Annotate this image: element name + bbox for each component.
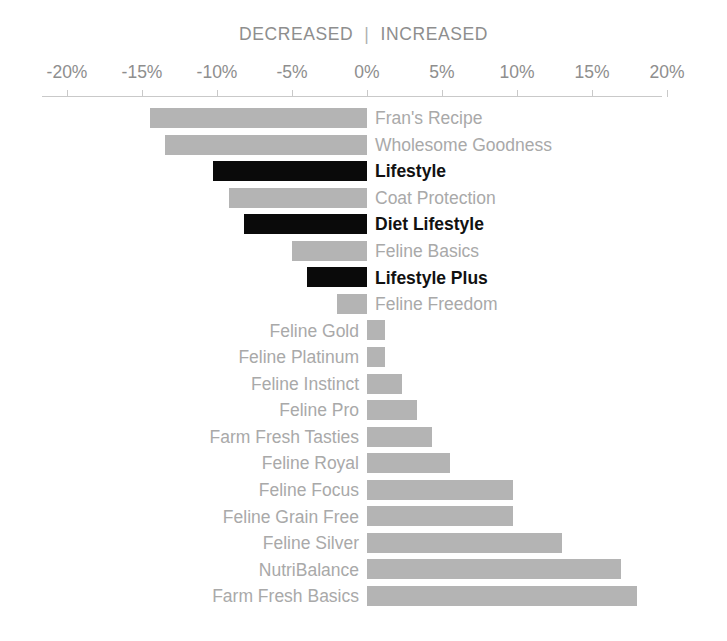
bar-label: Lifestyle [375, 163, 446, 181]
bar-row[interactable]: Feline Basics [0, 241, 727, 261]
plot-area: Fran's RecipeWholesome GoodnessLifestyle… [0, 0, 727, 641]
bar-row[interactable]: Feline Royal [0, 453, 727, 473]
bar[interactable] [367, 453, 450, 473]
bar[interactable] [367, 559, 621, 579]
bar[interactable] [229, 188, 367, 208]
bar-label: Wholesome Goodness [375, 137, 552, 155]
bar-label: Feline Pro [279, 402, 359, 420]
bar-row[interactable]: Feline Platinum [0, 347, 727, 367]
bar-label: Coat Protection [375, 190, 496, 208]
bar-row[interactable]: Feline Freedom [0, 294, 727, 314]
bar-row[interactable]: Coat Protection [0, 188, 727, 208]
bar-label: Feline Silver [263, 535, 359, 553]
bar-row[interactable]: Lifestyle Plus [0, 267, 727, 287]
bar[interactable] [292, 241, 367, 261]
bar-row[interactable]: Wholesome Goodness [0, 135, 727, 155]
bar-label: Feline Platinum [238, 349, 359, 367]
bar-label: NutriBalance [259, 562, 359, 580]
bar-label: Feline Focus [259, 482, 359, 500]
bar-row[interactable]: Feline Grain Free [0, 506, 727, 526]
bar-label: Farm Fresh Basics [212, 588, 359, 606]
bar[interactable] [367, 374, 402, 394]
bar-label: Feline Instinct [251, 376, 359, 394]
bar[interactable] [244, 214, 367, 234]
bar[interactable] [367, 533, 562, 553]
bar-row[interactable]: Fran's Recipe [0, 108, 727, 128]
bar[interactable] [367, 427, 432, 447]
bar-row[interactable]: Farm Fresh Tasties [0, 427, 727, 447]
bar-row[interactable]: Feline Silver [0, 533, 727, 553]
bar[interactable] [367, 320, 385, 340]
bar-label: Feline Freedom [375, 296, 498, 314]
bar-chart: DECREASED | INCREASED -20%-15%-10%-5%0%5… [0, 0, 727, 641]
bar[interactable] [307, 267, 367, 287]
bar-row[interactable]: Farm Fresh Basics [0, 586, 727, 606]
bar-label: Feline Gold [270, 323, 360, 341]
bar-row[interactable]: Feline Pro [0, 400, 727, 420]
bar-label: Feline Basics [375, 243, 479, 261]
bar-row[interactable]: Lifestyle [0, 161, 727, 181]
bar[interactable] [165, 135, 368, 155]
bar[interactable] [367, 347, 385, 367]
bar-label: Farm Fresh Tasties [210, 429, 359, 447]
bar-label: Diet Lifestyle [375, 216, 484, 234]
bar-label: Fran's Recipe [375, 110, 482, 128]
bar-label: Feline Royal [262, 455, 359, 473]
bar[interactable] [150, 108, 368, 128]
bar-row[interactable]: NutriBalance [0, 559, 727, 579]
bar[interactable] [367, 400, 417, 420]
bar[interactable] [213, 161, 368, 181]
bar-label: Feline Grain Free [223, 509, 359, 527]
bar-row[interactable]: Diet Lifestyle [0, 214, 727, 234]
bar[interactable] [367, 586, 637, 606]
bar[interactable] [367, 480, 513, 500]
bar[interactable] [367, 506, 513, 526]
bar-label: Lifestyle Plus [375, 270, 488, 288]
bar[interactable] [337, 294, 367, 314]
bar-row[interactable]: Feline Focus [0, 480, 727, 500]
bar-row[interactable]: Feline Gold [0, 320, 727, 340]
bar-row[interactable]: Feline Instinct [0, 374, 727, 394]
